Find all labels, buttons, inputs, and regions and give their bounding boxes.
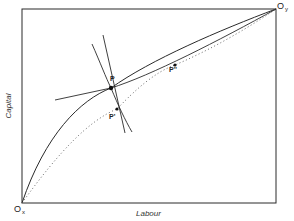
point-p-prime <box>115 107 118 110</box>
contract-curve-dotted <box>22 9 276 203</box>
origin-y-subscript: y <box>285 6 288 12</box>
origin-x-subscript: x <box>22 209 25 215</box>
contract-curve-solid <box>22 9 276 203</box>
origin-y-label: Oy <box>277 2 288 12</box>
box-frame <box>22 9 276 203</box>
x-axis-label: Labour <box>136 210 161 218</box>
origin-x-label: Ox <box>14 205 25 215</box>
point-p <box>109 86 113 90</box>
isoquant-line-flat <box>55 88 111 100</box>
point-p-label: P <box>110 75 115 82</box>
point-p-double-prime-label: P'' <box>169 66 177 73</box>
origin-x-letter: O <box>14 204 21 214</box>
origin-y-letter: O <box>277 1 284 11</box>
edgeworth-box-diagram <box>0 0 294 221</box>
contract-curve-solid-lower <box>111 9 276 88</box>
point-p-prime-label: P' <box>109 113 115 120</box>
y-axis-label: Capital <box>5 91 13 121</box>
